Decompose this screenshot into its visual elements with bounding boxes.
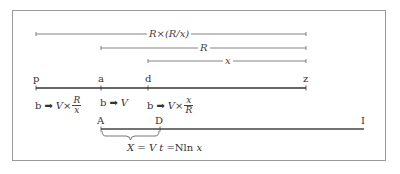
measure-label-x: x bbox=[223, 56, 233, 66]
transform-prefix: b bbox=[100, 96, 106, 110]
transform-expr: V× bbox=[168, 99, 184, 113]
point-label-d: d bbox=[145, 74, 151, 84]
measure-label-r: R bbox=[198, 43, 210, 53]
point-label-a: a bbox=[98, 74, 104, 84]
point-label-I: I bbox=[361, 116, 365, 126]
brace-a-d bbox=[102, 131, 159, 140]
point-label-A: A bbox=[97, 116, 104, 126]
transform-p: b ➡ V× R x bbox=[35, 96, 81, 115]
point-label-z: z bbox=[303, 74, 308, 84]
point-label-p: p bbox=[33, 74, 39, 84]
transform-expr: V bbox=[121, 96, 128, 110]
fraction-x-over-r: x R bbox=[184, 96, 193, 115]
transform-d: b ➡ V× x R bbox=[147, 96, 193, 115]
brace-formula: X = V t =Nln x bbox=[127, 143, 202, 153]
arrow-right-icon: ➡ bbox=[156, 99, 164, 113]
arrow-right-icon: ➡ bbox=[109, 96, 117, 110]
fraction-r-over-x: R x bbox=[72, 96, 81, 115]
transform-a: b ➡ V bbox=[100, 96, 128, 110]
arrow-right-icon: ➡ bbox=[44, 99, 52, 113]
transform-prefix: b bbox=[147, 99, 153, 113]
transform-expr: V× bbox=[56, 99, 72, 113]
point-label-D: D bbox=[155, 116, 163, 126]
transform-prefix: b bbox=[35, 99, 41, 113]
measure-label-rxrx: R×(R/x) bbox=[147, 29, 191, 39]
